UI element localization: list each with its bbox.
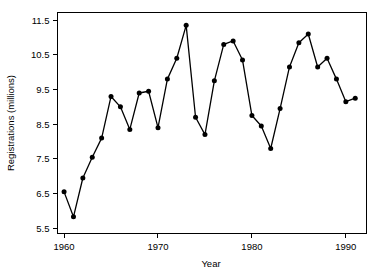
data-point (240, 58, 245, 63)
chart-container: 5.56.57.58.59.510.511.5 1960197019801990… (0, 0, 382, 275)
data-point (127, 127, 132, 132)
data-point (62, 189, 67, 194)
data-point (156, 125, 161, 130)
data-point (109, 94, 114, 99)
data-line (64, 25, 355, 217)
data-point (146, 89, 151, 94)
data-point (306, 32, 311, 37)
data-point (249, 113, 254, 118)
y-axis-title: Registrations (millions) (5, 75, 16, 171)
x-tick-label: 1970 (147, 241, 168, 252)
plot-frame (58, 13, 367, 234)
x-tick-label: 1980 (241, 241, 262, 252)
data-point (278, 106, 283, 111)
data-point (221, 42, 226, 47)
data-point (137, 90, 142, 95)
data-point (80, 175, 85, 180)
y-tick-label: 6.5 (36, 188, 49, 199)
data-point (315, 64, 320, 69)
y-axis-tick-labels: 5.56.57.58.59.510.511.5 (31, 15, 50, 234)
x-axis-ticks (64, 234, 346, 239)
data-point (184, 23, 189, 28)
line-chart: 5.56.57.58.59.510.511.5 1960197019801990… (0, 0, 382, 275)
data-point (99, 136, 104, 141)
data-point (202, 132, 207, 137)
y-tick-label: 5.5 (36, 223, 49, 234)
y-axis-ticks (53, 20, 58, 228)
y-tick-label: 11.5 (32, 15, 50, 26)
x-axis-tick-labels: 1960197019801990 (54, 241, 357, 252)
data-point (71, 214, 76, 219)
data-point (90, 155, 95, 160)
y-tick-label: 7.5 (36, 153, 49, 164)
data-point (212, 78, 217, 83)
data-point (296, 40, 301, 45)
x-tick-label: 1990 (335, 241, 356, 252)
x-axis-title: Year (201, 258, 220, 269)
data-point (268, 146, 273, 151)
data-point (259, 123, 264, 128)
data-point (165, 77, 170, 82)
y-tick-label: 10.5 (31, 49, 50, 60)
data-point (334, 77, 339, 82)
data-point (343, 99, 348, 104)
y-tick-label: 8.5 (36, 119, 49, 130)
x-tick-label: 1960 (54, 241, 75, 252)
series-group (62, 23, 358, 220)
data-point (325, 56, 330, 61)
data-point (174, 56, 179, 61)
data-point (287, 64, 292, 69)
data-point (193, 115, 198, 120)
y-tick-label: 9.5 (36, 84, 49, 95)
data-point (118, 104, 123, 109)
data-point (231, 38, 236, 43)
data-point (353, 96, 358, 101)
